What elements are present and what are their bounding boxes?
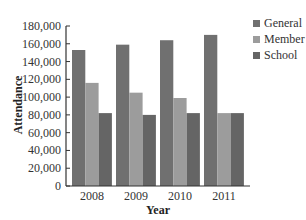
bar-general-2011 xyxy=(204,35,217,186)
bar-school-2010 xyxy=(187,113,200,186)
bar-group-2008 xyxy=(72,50,112,186)
legend-label: General xyxy=(264,16,303,30)
bar-group-2009 xyxy=(116,45,156,186)
y-tick-label: 100,000 xyxy=(22,90,61,104)
x-tick-label: 2011 xyxy=(212,189,236,203)
legend-label: School xyxy=(264,48,298,62)
x-axis-title: Year xyxy=(146,203,171,217)
bar-member-2011 xyxy=(217,113,230,186)
y-tick-label: 40,000 xyxy=(28,143,61,157)
legend-item-general: General xyxy=(253,16,303,30)
bar-general-2010 xyxy=(160,40,173,186)
bar-school-2011 xyxy=(231,113,244,186)
x-tick-label: 2010 xyxy=(168,189,192,203)
bar-group-2011 xyxy=(204,35,244,186)
y-axis-title: Attendance xyxy=(11,75,25,134)
y-axis-ticks: 020,00040,00060,00080,000100,000120,0001… xyxy=(22,19,70,193)
bar-group-2010 xyxy=(160,40,200,186)
y-tick-label: 120,000 xyxy=(22,72,61,86)
legend-item-school: School xyxy=(253,48,298,62)
bar-member-2008 xyxy=(85,83,98,186)
legend: GeneralMemberSchool xyxy=(253,16,305,62)
bar-member-2010 xyxy=(173,98,186,186)
bars xyxy=(72,35,244,186)
legend-label: Member xyxy=(264,32,305,46)
y-tick-label: 180,000 xyxy=(22,19,61,33)
attendance-bar-chart: 020,00040,00060,00080,000100,000120,0001… xyxy=(0,0,306,220)
x-tick-label: 2008 xyxy=(80,189,104,203)
bar-general-2009 xyxy=(116,45,129,186)
y-tick-label: 160,000 xyxy=(22,37,61,51)
bar-general-2008 xyxy=(72,50,85,186)
x-axis-tick-labels: 2008200920102011 xyxy=(80,189,236,203)
y-tick-label: 80,000 xyxy=(28,108,61,122)
bar-member-2009 xyxy=(129,93,142,186)
y-tick-label: 60,000 xyxy=(28,126,61,140)
legend-item-member: Member xyxy=(253,32,305,46)
y-tick-label: 0 xyxy=(55,179,61,193)
bar-school-2009 xyxy=(143,115,156,186)
legend-swatch xyxy=(253,52,260,59)
legend-swatch xyxy=(253,36,260,43)
y-tick-label: 140,000 xyxy=(22,55,61,69)
legend-swatch xyxy=(253,20,260,27)
x-tick-label: 2009 xyxy=(124,189,148,203)
y-tick-label: 20,000 xyxy=(28,161,61,175)
bar-school-2008 xyxy=(99,113,112,186)
